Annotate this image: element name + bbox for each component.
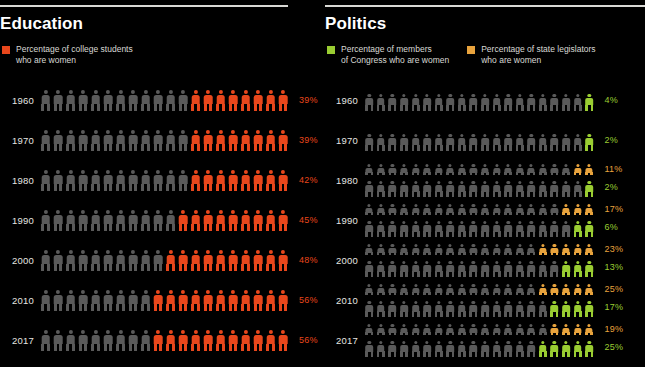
person-icon [503,181,513,198]
person-icon [561,324,571,336]
person-icon [538,181,548,198]
person-icon [572,244,582,256]
person-icon [215,170,226,191]
person-icon [240,210,251,231]
person-icon [265,290,276,311]
person-icon [53,290,64,311]
person-icon [140,90,151,111]
person-icon [433,261,443,278]
table-row: 200048% [0,240,320,280]
percentage-label: 4% [605,95,618,105]
person-icon [422,94,432,111]
politics-top-rule [325,5,645,7]
person-icon [399,204,409,216]
person-icon [140,170,151,191]
person-icon [491,134,501,151]
person-icon [457,164,467,176]
person-icon [228,210,239,231]
panel-education: Education Percentage of college students… [0,0,320,367]
pictogram-subrow-college-students: 42% [40,169,320,191]
legend-swatch-icon-legislators [467,46,475,54]
person-icon [128,250,139,271]
person-icon [240,290,251,311]
person-icon [549,181,559,198]
person-icon [503,221,513,238]
percentage-label: 25% [605,284,624,294]
row-year-label: 1970 [0,135,34,146]
person-icon [538,204,548,216]
person-icon [445,134,455,151]
person-icon [78,250,89,271]
person-icon [228,250,239,271]
person-icon [561,94,571,111]
row-year-label: 2000 [320,255,358,266]
person-icon [410,181,420,198]
education-top-rule [0,5,288,7]
row-year-label: 2017 [320,335,358,346]
person-icon [78,170,89,191]
education-legend: Percentage of college students who are w… [2,44,320,74]
person-icon [468,284,478,296]
pictogram-figures [364,324,596,336]
person-icon [228,130,239,151]
person-icon [153,250,164,271]
person-icon [549,244,559,256]
person-icon [538,244,548,256]
person-icon [228,170,239,191]
person-icon [376,301,386,318]
person-icon [468,164,478,176]
person-icon [240,170,251,191]
person-icon [503,244,513,256]
person-icon [526,134,536,151]
person-icon [503,204,513,216]
person-icon [53,210,64,231]
person-icon [480,324,490,336]
person-icon [445,221,455,238]
pictogram-subrow-college-students: 48% [40,249,320,271]
person-icon [480,341,490,358]
person-icon [468,181,478,198]
person-icon [387,324,397,336]
person-icon [215,250,226,271]
pictogram-figures [364,164,596,176]
person-icon [65,290,76,311]
person-icon [376,244,386,256]
education-panel-title: Education [0,14,320,34]
person-icon [491,301,501,318]
person-icon [445,324,455,336]
person-icon [178,330,189,351]
education-rows: 196039%197039%198042%199045%200048%20105… [0,80,320,360]
table-row: 199017%6% [320,200,645,240]
person-icon [253,250,264,271]
person-icon [549,284,559,296]
table-row: 198011%2% [320,160,645,200]
person-icon [538,301,548,318]
person-icon [190,250,201,271]
person-icon [538,221,548,238]
person-icon [468,244,478,256]
person-icon [538,134,548,151]
person-icon [364,221,374,238]
person-icon [480,284,490,296]
person-icon [410,134,420,151]
person-icon [410,301,420,318]
person-icon [387,301,397,318]
person-icon [190,130,201,151]
pictogram-figures [364,244,596,256]
person-icon [364,324,374,336]
person-icon [480,244,490,256]
person-icon [165,170,176,191]
person-icon [103,250,114,271]
person-icon [584,204,594,216]
person-icon [364,261,374,278]
table-row: 199045% [0,200,320,240]
person-icon [190,290,201,311]
person-icon [572,324,582,336]
person-icon [115,130,126,151]
person-icon [457,261,467,278]
person-icon [457,341,467,358]
person-icon [480,94,490,111]
person-icon [103,130,114,151]
person-icon [526,324,536,336]
person-icon [584,301,594,318]
